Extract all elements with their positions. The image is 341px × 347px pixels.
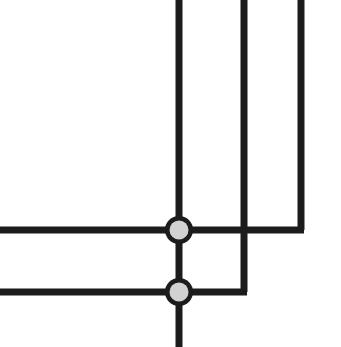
junction-node-upper-core — [170, 221, 189, 240]
junction-node-lower[interactable] — [165, 278, 193, 306]
junction-node-upper[interactable] — [165, 216, 193, 244]
diagram-canvas — [0, 0, 341, 347]
junction-node-lower-core — [170, 283, 189, 302]
junction-diagram — [0, 0, 341, 347]
